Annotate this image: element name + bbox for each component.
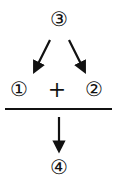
plus-operator: + — [48, 77, 66, 102]
arrow-right — [69, 40, 83, 68]
bottom-node-label: ④ — [50, 155, 68, 179]
top-node-label: ③ — [50, 7, 68, 31]
arrow-left — [36, 40, 50, 68]
left-node-label: ① — [10, 77, 28, 101]
right-node-label: ② — [85, 77, 103, 101]
diagram-canvas: ③ ① + ② ④ — [0, 0, 117, 190]
